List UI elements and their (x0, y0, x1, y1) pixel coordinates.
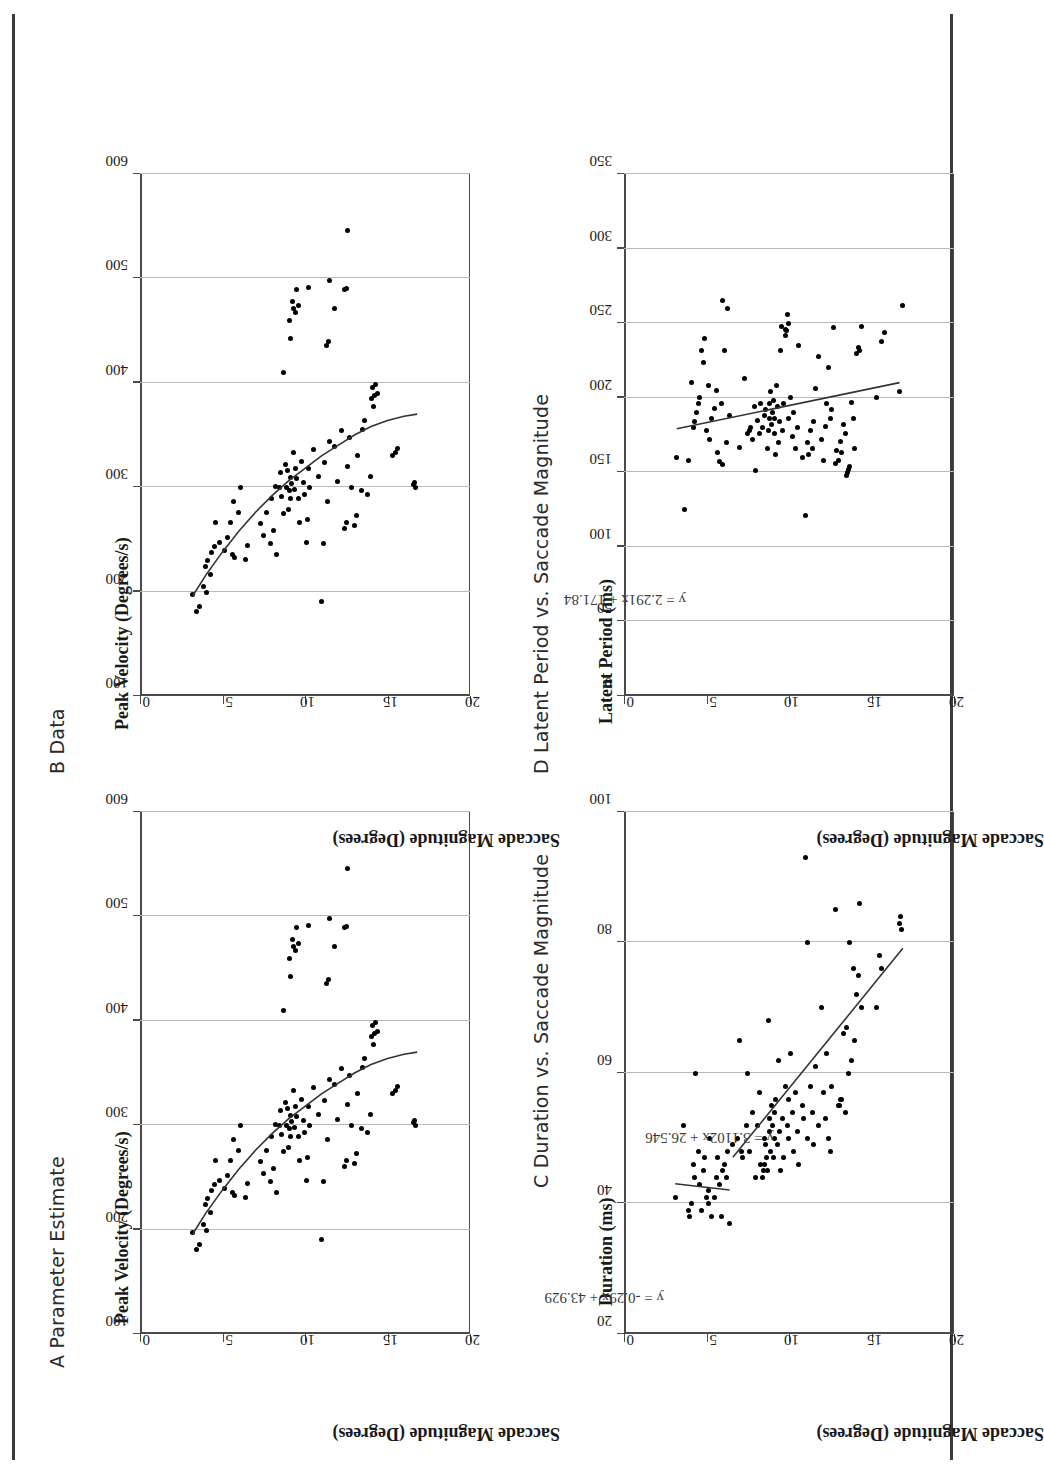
ytick-A-200 (133, 1228, 140, 1229)
ytick-B-300 (133, 486, 140, 487)
y-tick-label-B-100: 100 (106, 674, 129, 691)
y-tick-label-A-100: 100 (106, 1312, 129, 1329)
y-tick-label-B-600: 600 (106, 152, 129, 169)
x-tick-label-D-10: 10 (784, 693, 799, 710)
ytick-A-300 (133, 1124, 140, 1125)
ytick-A-600 (133, 811, 140, 812)
panel-b-x-axis-title: Saccade Magnitude (Degrees) (332, 829, 560, 850)
panel-b-title: B Data (46, 708, 68, 774)
ytick-A-500 (133, 915, 140, 916)
x-tick-label-D-20: 20 (949, 693, 964, 710)
x-tick-label-C-10: 10 (784, 1331, 799, 1348)
panel-a-x-axis-title: Saccade Magnitude (Degrees) (332, 1423, 560, 1444)
ytick-D-350 (617, 173, 624, 174)
x-tick-label-A-20: 20 (465, 1331, 480, 1348)
panel-a-y-axis-title: Peak Velocity (Degrees/s) (112, 1131, 133, 1324)
y-tick-label-D-350: 350 (590, 152, 613, 169)
ytick-B-400 (133, 381, 140, 382)
panel-c-title: C Duration vs. Saccade Magnitude (530, 854, 552, 1188)
xtick-B-0 (140, 696, 141, 704)
panel-b-y-axis-title: Peak Velocity (Degrees/s) (112, 537, 133, 730)
fit-line-layer-D (624, 174, 954, 696)
y-tick-label-A-400: 400 (106, 999, 129, 1016)
ytick-D-0 (617, 695, 624, 696)
y-tick-label-D-300: 300 (590, 227, 613, 244)
ytick-A-100 (133, 1333, 140, 1334)
x-tick-label-D-0: 0 (627, 693, 635, 710)
fit-curve-A (193, 1052, 417, 1234)
fit-line-layer-A (140, 812, 470, 1334)
equation-label-D-0: y = 2.291x + 171.84 (564, 591, 686, 608)
ytick-D-250 (617, 322, 624, 323)
y-tick-label-B-200: 200 (106, 570, 129, 587)
fit-line-layer-C (624, 812, 954, 1334)
x-tick-label-B-0: 0 (143, 693, 151, 710)
top-rule (12, 14, 15, 1460)
y-tick-label-C-20: 20 (597, 1312, 612, 1329)
y-tick-label-D-100: 100 (590, 525, 613, 542)
fit-line-C-0 (675, 1184, 729, 1190)
x-tick-label-C-5: 5 (709, 1331, 717, 1348)
y-tick-label-D-200: 200 (590, 376, 613, 393)
ytick-C-20 (617, 1333, 624, 1334)
x-tick-label-B-15: 15 (383, 693, 398, 710)
xtick-D-0 (624, 696, 625, 704)
xtick-A-5 (223, 1334, 224, 1342)
panel-d-x-axis-title: Saccade Magnitude (Degrees) (816, 829, 1044, 850)
ytick-D-300 (617, 247, 624, 248)
ytick-B-200 (133, 590, 140, 591)
x-tick-label-C-15: 15 (867, 1331, 882, 1348)
x-tick-label-C-0: 0 (627, 1331, 635, 1348)
ytick-B-500 (133, 277, 140, 278)
panel-d-title: D Latent Period vs. Saccade Magnitude (530, 394, 552, 774)
panel-c-x-axis-title: Saccade Magnitude (Degrees) (816, 1423, 1044, 1444)
panel-a-plot-area (140, 812, 470, 1334)
x-tick-label-C-20: 20 (949, 1331, 964, 1348)
xtick-C-5 (707, 1334, 708, 1342)
ytick-C-60 (617, 1072, 624, 1073)
ytick-D-200 (617, 396, 624, 397)
y-tick-label-D-150: 150 (590, 450, 613, 467)
ytick-B-100 (133, 695, 140, 696)
ytick-B-600 (133, 173, 140, 174)
fit-line-C-1 (733, 948, 903, 1157)
x-tick-label-B-5: 5 (225, 693, 233, 710)
ytick-C-40 (617, 1202, 624, 1203)
y-tick-label-C-100: 100 (590, 790, 613, 807)
y-tick-label-A-300: 300 (106, 1103, 129, 1120)
ytick-D-150 (617, 471, 624, 472)
y-tick-label-C-40: 40 (597, 1182, 612, 1199)
y-tick-label-A-200: 200 (106, 1208, 129, 1225)
fit-line-D-0 (677, 383, 900, 429)
x-tick-label-A-10: 10 (300, 1331, 315, 1348)
panel-b-plot-area (140, 174, 470, 696)
ytick-C-100 (617, 811, 624, 812)
ytick-C-80 (617, 941, 624, 942)
panel-a-title: A Parameter Estimate (46, 1156, 68, 1368)
y-tick-label-B-500: 500 (106, 256, 129, 273)
x-tick-label-D-5: 5 (709, 693, 717, 710)
x-tick-label-A-0: 0 (143, 1331, 151, 1348)
panel-c-plot-area (624, 812, 954, 1334)
y-tick-label-B-400: 400 (106, 361, 129, 378)
x-tick-label-A-5: 5 (225, 1331, 233, 1348)
y-tick-label-D-250: 250 (590, 301, 613, 318)
panel-d-plot-area (624, 174, 954, 696)
xtick-A-0 (140, 1334, 141, 1342)
y-tick-label-A-500: 500 (106, 894, 129, 911)
ytick-D-100 (617, 545, 624, 546)
y-tick-label-C-80: 80 (597, 921, 612, 938)
y-tick-label-A-600: 600 (106, 790, 129, 807)
ytick-A-400 (133, 1019, 140, 1020)
fit-line-layer-B (140, 174, 470, 696)
xtick-D-5 (707, 696, 708, 704)
ytick-D-50 (617, 620, 624, 621)
equation-label-C-1: y = 3.1102x + 26.546 (645, 1129, 774, 1146)
x-tick-label-A-15: 15 (383, 1331, 398, 1348)
fit-curve-B (193, 414, 417, 596)
y-tick-label-B-300: 300 (106, 465, 129, 482)
x-tick-label-B-10: 10 (300, 693, 315, 710)
xtick-B-5 (223, 696, 224, 704)
